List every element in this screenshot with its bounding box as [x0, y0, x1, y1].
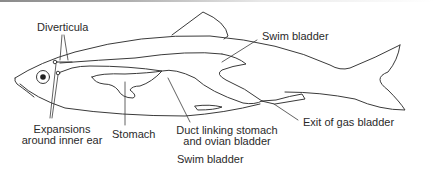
diverticula-knob-lower [56, 71, 60, 75]
leader-exit [274, 104, 298, 120]
exit-duct [262, 94, 305, 104]
diverticula-knob-upper [53, 60, 57, 64]
body-outline-top [15, 36, 400, 78]
label-diverticula: Diverticula [37, 22, 88, 33]
pelvic-fin [195, 105, 222, 110]
label-stomach: Stomach [112, 129, 155, 140]
swim-bladder-upper [60, 53, 222, 63]
label-exit-gas-bladder: Exit of gas bladder [303, 117, 394, 128]
leader-duct [168, 78, 190, 122]
swim-bladder-posterior [219, 54, 262, 101]
dorsal-fin [172, 12, 228, 39]
label-expansions: Expansions around inner ear [20, 124, 104, 146]
leader-swim-bladder [222, 40, 257, 62]
label-expansions-line2: around inner ear [20, 135, 104, 146]
diverticula-fork [55, 62, 262, 104]
eye-pupil [40, 74, 46, 80]
label-duct: Duct linking stomach and ovian bladder [175, 125, 279, 147]
diagram-caption: Swim bladder [177, 154, 244, 165]
stomach-outline [92, 71, 162, 98]
label-duct-line2: and ovian bladder [175, 136, 279, 147]
label-swim-bladder: Swim bladder [262, 31, 329, 42]
